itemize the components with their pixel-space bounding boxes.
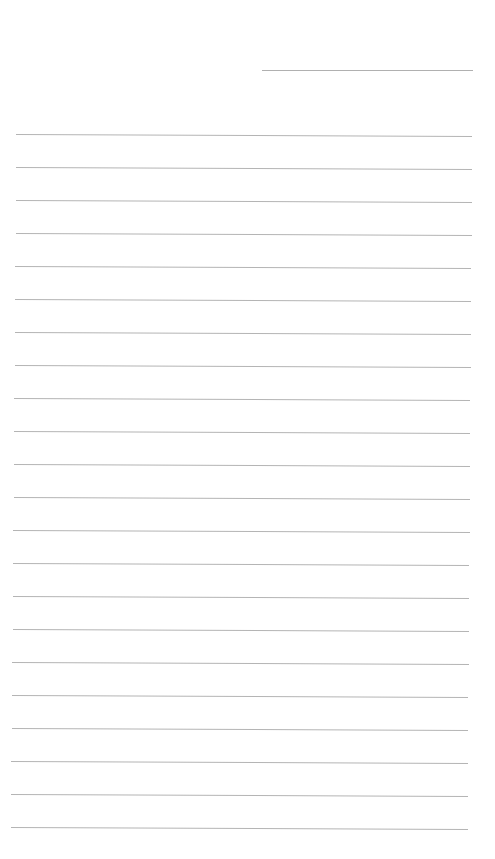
ruled-line [16, 134, 472, 137]
ruled-line [11, 761, 468, 764]
ruled-line [16, 200, 472, 203]
ruled-line [15, 365, 471, 368]
ruled-line [12, 728, 468, 731]
header-rule [262, 70, 473, 71]
ruled-line [13, 596, 469, 599]
ruled-line [14, 398, 470, 401]
ruled-line [14, 431, 470, 434]
ruled-line [13, 629, 469, 632]
ruled-line [14, 464, 470, 467]
ruled-line [13, 563, 469, 566]
ruled-line [12, 662, 469, 665]
ruled-line [13, 530, 470, 533]
ruled-line [16, 167, 472, 170]
ruled-line [14, 497, 470, 500]
lined-paper-page [0, 0, 495, 859]
ruled-line [12, 695, 468, 698]
ruled-line [11, 827, 468, 830]
ruled-line [15, 332, 471, 335]
ruled-line [15, 266, 471, 269]
ruled-line [16, 233, 472, 236]
ruled-line [11, 794, 468, 797]
ruled-line [15, 299, 471, 302]
